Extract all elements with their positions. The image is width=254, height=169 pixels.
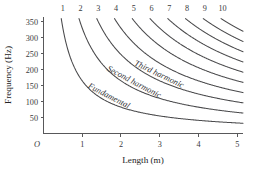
x-tick-label: 4 (196, 140, 200, 149)
harmonic-number-3: 3 (96, 4, 100, 13)
harmonic-number-6: 6 (149, 4, 153, 13)
x-tick-label: 2 (119, 140, 123, 149)
chart-figure: 50100150200250300350 12345 12345678910 F… (0, 0, 254, 169)
y-tick-label: 150 (26, 82, 38, 91)
axes-group (44, 17, 244, 134)
harmonic-number-10: 10 (218, 4, 226, 13)
x-tick-label: 5 (235, 140, 239, 149)
y-tick-label: 350 (26, 18, 38, 27)
y-tick-label: 50 (30, 114, 38, 123)
x-tick-label: 1 (80, 140, 84, 149)
harmonic-curve-8 (186, 19, 243, 52)
y-tick-label: 100 (26, 98, 38, 107)
harmonic-curve-10 (221, 19, 243, 32)
harmonic-number-5: 5 (132, 4, 136, 13)
harmonic-number-8: 8 (185, 4, 189, 13)
x-tick-group: 12345 (80, 134, 239, 149)
harmonic-number-9: 9 (203, 4, 207, 13)
harmonic-number-4: 4 (114, 4, 118, 13)
y-tick-group: 50100150200250300350 (26, 18, 44, 123)
harmonic-number-7: 7 (167, 4, 171, 13)
origin-label: O (34, 140, 40, 149)
curve-label-1: Fundamental (86, 80, 133, 111)
chart-canvas: 50100150200250300350 12345 12345678910 F… (0, 0, 254, 169)
x-axis-title: Length (m) (122, 155, 164, 165)
x-tick-label: 3 (158, 140, 162, 149)
y-tick-label: 300 (26, 34, 38, 43)
curve-label-group: FundamentalSecond harmonicThird harmonic (86, 58, 186, 111)
harmonic-curve-9 (203, 19, 243, 42)
harmonic-number-group: 12345678910 (61, 4, 227, 13)
y-tick-label: 200 (26, 66, 38, 75)
y-tick-label: 250 (26, 50, 38, 59)
harmonic-number-2: 2 (78, 4, 82, 13)
y-axis-title: Frequency (Hz) (3, 46, 13, 104)
harmonic-curve-3 (97, 19, 243, 103)
harmonic-number-1: 1 (61, 4, 65, 13)
